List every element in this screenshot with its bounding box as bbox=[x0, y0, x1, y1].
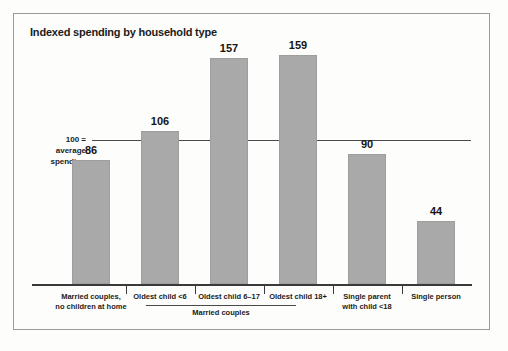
chart-title: Indexed spending by household type bbox=[30, 26, 217, 38]
chart-page: Indexed spending by household type 100 =… bbox=[0, 0, 508, 351]
chart-frame bbox=[13, 13, 490, 330]
